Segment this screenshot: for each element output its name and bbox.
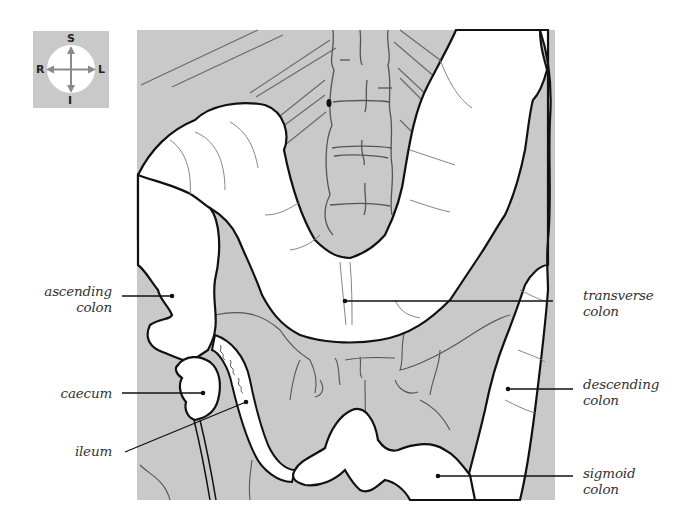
label-transverse-colon: transverse colon (583, 287, 681, 319)
label-sigmoid-colon: sigmoid colon (583, 465, 681, 497)
colon-diagram: S I R L (0, 0, 681, 522)
spine-mark (327, 99, 332, 107)
label-ileum: ileum (14, 443, 112, 459)
label-descending-colon: descending colon (583, 376, 681, 408)
label-caecum: caecum (14, 385, 112, 401)
label-ascending-colon: ascending colon (14, 283, 112, 315)
